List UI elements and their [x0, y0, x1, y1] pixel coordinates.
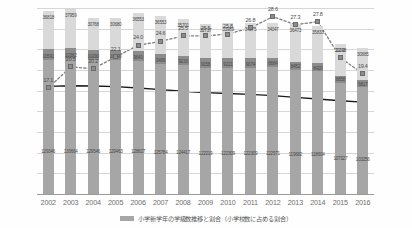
ratio-value-label: 27.8 [305, 11, 331, 17]
bar-segment-bottom[interactable] [110, 60, 121, 194]
bar-group[interactable] [43, 8, 54, 194]
ratio-value-label: 20.2 [80, 58, 106, 64]
bar-segment-bottom[interactable] [155, 64, 166, 194]
bar-group[interactable] [65, 8, 76, 194]
bar-segment-bottom[interactable] [133, 61, 144, 194]
ratio-value-label: 19.4 [350, 63, 376, 69]
bar-segment-bottom[interactable] [312, 71, 323, 194]
ratio-data-point[interactable] [338, 55, 343, 60]
bar-value-label-top: 30680 [101, 22, 131, 27]
bar-value-label-bottom: 103256 [348, 157, 378, 162]
bar-value-label-middle: 8420 [303, 66, 333, 71]
ratio-data-point[interactable] [181, 33, 186, 38]
bar-group[interactable] [110, 8, 121, 194]
bar-group[interactable] [290, 8, 301, 194]
bar-segment-bottom[interactable] [267, 67, 278, 194]
bar-segment-bottom[interactable] [88, 60, 99, 194]
ratio-data-point[interactable] [270, 14, 275, 19]
bar-value-label-middle: 6817 [348, 82, 378, 87]
bar-group[interactable] [312, 8, 323, 194]
bar-segment-bottom[interactable] [290, 70, 301, 194]
ratio-value-label: 26.8 [237, 17, 263, 23]
ratio-data-point[interactable] [136, 43, 141, 48]
legend-label: 小学新学年の学級数推移と割合（小学校数に占める割合） [138, 214, 291, 223]
ratio-data-point[interactable] [113, 54, 118, 59]
bar-value-label-top: 30885 [348, 52, 378, 57]
bar-group[interactable] [88, 8, 99, 194]
ratio-data-point[interactable] [225, 32, 230, 37]
bar-segment-bottom[interactable] [200, 68, 211, 194]
ratio-data-point[interactable] [293, 22, 298, 27]
bar-value-label-top: 35833 [303, 30, 333, 35]
legend-swatch-icon [120, 216, 134, 221]
x-axis-line [37, 194, 374, 195]
ratio-value-label: 25.8 [215, 23, 241, 29]
ratio-data-point[interactable] [248, 25, 253, 30]
chart-legend: 小学新学年の学級数推移と割合（小学校数に占める割合） [0, 214, 412, 223]
ratio-value-label: 22.1 [103, 46, 129, 52]
bar-group[interactable] [335, 8, 346, 194]
ratio-data-point[interactable] [68, 64, 73, 69]
bar-value-label-top: 37959 [56, 13, 86, 18]
bar-group[interactable] [267, 8, 278, 194]
bar-group[interactable] [357, 8, 368, 194]
ratio-data-point[interactable] [360, 71, 365, 76]
bar-segment-bottom[interactable] [245, 68, 256, 194]
ratio-value-label: 22.0 [327, 47, 353, 53]
ratio-data-point[interactable] [315, 19, 320, 24]
bar-group[interactable] [245, 8, 256, 194]
bar-segment-bottom[interactable] [178, 65, 189, 194]
chart-container: 180,000160,000140,000120,000100,00080,00… [0, 0, 412, 228]
plot-area: 180,000160,000140,000120,000100,00080,00… [37, 8, 374, 194]
bar-segment-bottom[interactable] [65, 59, 76, 194]
bar-segment-bottom[interactable] [335, 83, 346, 194]
ratio-data-point[interactable] [46, 85, 51, 90]
bar-segment-bottom[interactable] [222, 68, 233, 194]
ratio-value-label: 17.1 [35, 77, 61, 83]
ratio-data-point[interactable] [158, 39, 163, 44]
ratio-data-point[interactable] [91, 66, 96, 71]
bar-segment-bottom[interactable] [357, 87, 368, 194]
ratio-value-label: 24.6 [148, 30, 174, 36]
ratio-value-label: 28.6 [260, 6, 286, 12]
x-axis-tick-label: 2016 [348, 198, 378, 207]
ratio-data-point[interactable] [203, 33, 208, 38]
